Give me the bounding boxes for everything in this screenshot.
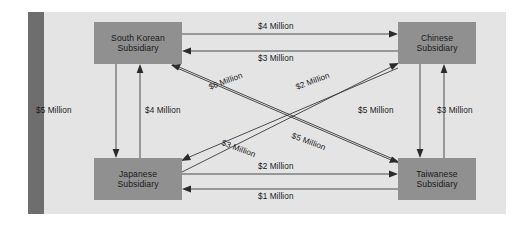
node-label-line2: Subsidiary (117, 43, 158, 54)
node-label-line1: Taiwanese (416, 169, 458, 180)
edge-label-jp-to-tw: $2 Million (258, 162, 294, 171)
edge-label-sk-to-cn: $4 Million (258, 22, 294, 31)
node-label-line2: Subsidiary (416, 43, 457, 54)
edge-label-cn-to-tw: $5 Million (358, 106, 394, 115)
edge-label-tw-to-jp: $1 Million (258, 192, 294, 201)
edge-jp-to-sk (137, 64, 144, 158)
edge-cn-to-tw (417, 64, 424, 158)
edge-label-sk-to-jp: $5 Million (36, 106, 72, 115)
node-chinese-subsidiary[interactable]: Chinese Subsidiary (398, 22, 476, 64)
diagram-canvas: South Korean Subsidiary Chinese Subsidia… (0, 0, 530, 226)
edge-sk-to-jp (113, 64, 120, 158)
edge-jp-to-tw (182, 171, 398, 178)
edge-label-cn-to-sk: $3 Million (258, 54, 294, 63)
node-label-line1: South Korean (111, 33, 165, 44)
node-label-line2: Subsidiary (117, 179, 158, 190)
node-south-korean-subsidiary[interactable]: South Korean Subsidiary (94, 22, 182, 64)
node-japanese-subsidiary[interactable]: Japanese Subsidiary (94, 158, 182, 200)
node-label-line2: Subsidiary (416, 179, 457, 190)
edge-label-jp-to-sk: $4 Million (145, 106, 181, 115)
node-label-line1: Chinese (421, 33, 453, 44)
node-taiwanese-subsidiary[interactable]: Taiwanese Subsidiary (398, 158, 476, 200)
edge-label-tw-to-cn: $3 Million (437, 106, 473, 115)
node-label-line1: Japanese (119, 169, 157, 180)
edge-sk-to-cn (182, 31, 398, 38)
